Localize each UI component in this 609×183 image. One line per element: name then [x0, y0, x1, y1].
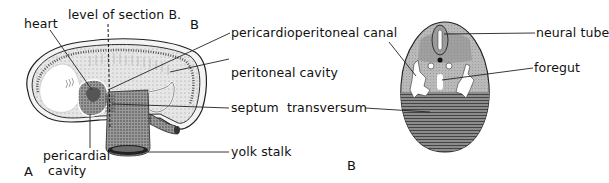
label-cavity: cavity — [48, 164, 86, 178]
label-heart: heart — [24, 17, 58, 31]
label-foregut: foregut — [534, 61, 580, 75]
label-level-of-section: level of section B. — [68, 8, 181, 22]
label-pericardial: pericardial — [43, 149, 110, 163]
label-pericardioperitoneal-canal: pericardioperitoneal canal — [231, 26, 397, 40]
panel-letter-b: B — [347, 159, 356, 173]
cross-section-view — [398, 22, 493, 156]
label-peritoneal-cavity: peritoneal cavity — [231, 66, 338, 80]
label-yolk-stalk: yolk stalk — [231, 145, 292, 159]
panel-letter-a: A — [24, 165, 33, 179]
panel-letter-section-marker: B — [190, 18, 199, 32]
label-septum-transversum: septum transversum — [231, 101, 367, 115]
label-neural-tube: neural tube — [536, 26, 609, 40]
